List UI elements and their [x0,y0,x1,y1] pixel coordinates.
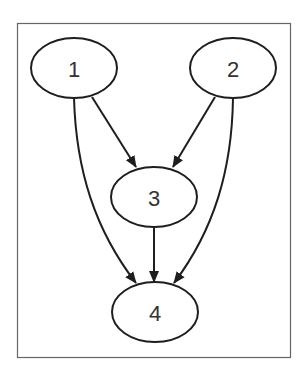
node-3: 3 [111,167,197,227]
dag-diagram: 1 2 3 4 [0,0,304,373]
node-1: 1 [31,38,117,98]
node-1-label: 1 [68,57,80,82]
edge-2-to-3 [173,97,215,167]
node-4: 4 [112,282,198,342]
node-2: 2 [190,38,276,98]
node-2-label: 2 [227,57,239,82]
edge-1-to-3 [92,97,136,167]
node-3-label: 3 [148,186,160,211]
node-4-label: 4 [149,301,161,326]
